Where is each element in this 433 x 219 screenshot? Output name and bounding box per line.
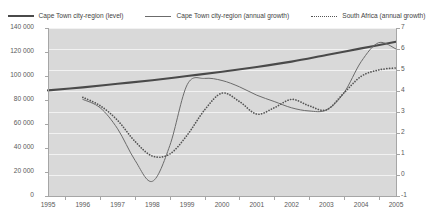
legend-item-south-africa-growth: South Africa (annual growth) [311, 13, 425, 20]
x-axis-tick-label: 1995 [32, 202, 64, 209]
plot-area [48, 28, 396, 196]
legend-swatch-solid-thin-icon [145, 13, 171, 19]
y2-axis-tick-label: 2 [401, 129, 405, 136]
y2-axis-tick [397, 49, 400, 50]
x-axis-tick-label: 2002 [276, 202, 308, 209]
y-axis-tick-label: 40 000 [14, 144, 34, 151]
y2-axis-tick-label: 7 [401, 24, 405, 31]
y2-axis-tick [397, 154, 400, 155]
x-axis-tick-label: 2000 [206, 202, 238, 209]
x-axis-tick-label: 1998 [136, 202, 168, 209]
y2-axis-tick-label: 5 [401, 66, 405, 73]
x-axis-tick [379, 197, 380, 200]
y2-axis-tick-label: -1 [401, 192, 407, 199]
y-axis-tick-label: 140 000 [10, 24, 34, 31]
x-axis-tick [274, 197, 275, 200]
y2-axis-tick [397, 70, 400, 71]
axis-line-right [396, 28, 397, 197]
y-axis-tick-label: 100 000 [10, 72, 34, 79]
x-axis-tick-label: 2001 [241, 202, 273, 209]
x-axis-tick [170, 197, 171, 200]
axis-line-left [48, 28, 49, 197]
x-axis-tick [309, 197, 310, 200]
x-axis-tick [135, 197, 136, 200]
y2-axis-tick [397, 175, 400, 176]
y-axis-tick-label: 0 [30, 192, 34, 199]
legend-swatch-dotted-icon [311, 13, 337, 19]
legend-label-level: Cape Town city-region (level) [39, 13, 124, 20]
y2-axis-tick-label: 6 [401, 45, 405, 52]
y2-axis-tick [397, 112, 400, 113]
x-axis-tick-label: 1996 [67, 202, 99, 209]
legend-label-south-africa-growth: South Africa (annual growth) [342, 13, 425, 20]
x-axis-tick-label: 1999 [171, 202, 203, 209]
series-line-2 [83, 68, 396, 157]
y2-axis-tick-label: 4 [401, 87, 405, 94]
y2-axis-tick-label: 1 [401, 150, 405, 157]
x-axis-tick [100, 197, 101, 200]
series-lines [48, 28, 396, 196]
x-axis-tick [205, 197, 206, 200]
x-axis-tick [65, 197, 66, 200]
x-axis-tick-label: 2003 [310, 202, 342, 209]
y2-axis-tick [397, 28, 400, 29]
y2-axis-tick [397, 196, 400, 197]
x-axis-tick-label: 2004 [345, 202, 377, 209]
y-axis-tick-label: 120 000 [10, 48, 34, 55]
x-axis-tick-label: 1997 [102, 202, 134, 209]
legend-label-cape-town-growth: Cape Town city-region (annual growth) [176, 13, 289, 20]
legend-swatch-solid-thick-icon [8, 13, 34, 19]
y-axis-tick-label: 80 000 [14, 96, 34, 103]
series-line-0 [48, 42, 396, 91]
axis-line-bottom [48, 196, 396, 197]
legend-item-cape-town-growth: Cape Town city-region (annual growth) [145, 13, 289, 20]
y-axis-tick-label: 60 000 [14, 120, 34, 127]
x-axis-tick-label: 2005 [380, 202, 412, 209]
y2-axis-tick-label: 0 [401, 171, 405, 178]
chart-container: Cape Town city-region (level) Cape Town … [0, 0, 433, 219]
y-axis-tick-label: 20 000 [14, 168, 34, 175]
x-axis-tick [344, 197, 345, 200]
x-axis-tick [239, 197, 240, 200]
y2-axis-tick-label: 3 [401, 108, 405, 115]
series-line-1 [83, 42, 396, 181]
y2-axis-tick [397, 91, 400, 92]
y2-axis-tick [397, 133, 400, 134]
legend-item-level: Cape Town city-region (level) [8, 13, 124, 20]
chart-legend: Cape Town city-region (level) Cape Town … [0, 9, 433, 23]
